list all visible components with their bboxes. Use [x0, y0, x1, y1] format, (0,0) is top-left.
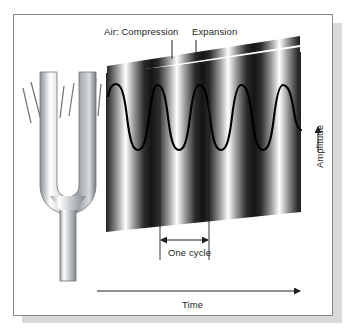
label-time-axis: Time: [182, 299, 203, 310]
label-one-cycle: One cycle: [168, 247, 211, 258]
figure-artwork: [0, 0, 347, 330]
tuning-fork: [40, 72, 96, 281]
label-expansion: Expansion: [192, 26, 237, 37]
label-air-compression: Air: Compression: [104, 26, 178, 37]
label-amplitude-axis: Amplitude: [314, 119, 325, 175]
tuning-fork-sound-wave-figure: Air: Compression Expansion One cycle Tim…: [0, 0, 347, 330]
